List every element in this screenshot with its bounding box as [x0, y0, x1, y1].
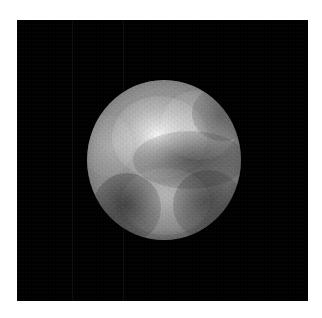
dark-south-east-region: [173, 170, 241, 240]
bright-north-east-region: [161, 90, 238, 160]
planetary-disk: [87, 80, 241, 240]
bright-west-limb: [87, 115, 133, 176]
seam-line-1: [72, 20, 73, 301]
dark-south-west-region: [93, 173, 161, 240]
bright-south-band: [121, 168, 210, 235]
limb-darkening: [87, 80, 241, 240]
telescope-image-frame: [17, 20, 308, 301]
bright-core-region: [112, 96, 207, 179]
dark-north-east-notch: [192, 86, 241, 140]
disk-pixel-blocks: [87, 80, 241, 240]
disk-grain-texture: [87, 80, 241, 240]
image-canvas: Grayscale telescope image of a planetary…: [0, 0, 322, 318]
dark-equatorial-belt: [133, 131, 241, 189]
